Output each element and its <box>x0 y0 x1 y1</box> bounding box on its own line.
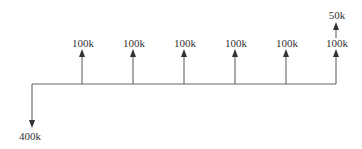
inflow-label-period-4: 100k <box>225 38 247 49</box>
inflow-label-period-1: 100k <box>72 38 94 49</box>
inflow-arrow-period-3 <box>181 49 187 84</box>
inflow-arrow-period-4 <box>232 49 238 84</box>
inflow-arrow-period-2 <box>130 49 136 84</box>
outflow-arrow-period-0 <box>29 84 35 128</box>
inflow-label-period-2: 100k <box>123 38 145 49</box>
inflow-arrow-period-6 <box>333 49 339 84</box>
inflow-label-period-5: 100k <box>276 38 298 49</box>
inflow-arrow-period-5 <box>283 49 289 84</box>
extra-inflow-arrow-period-6 <box>333 22 339 38</box>
cash-flow-diagram <box>0 0 362 149</box>
inflow-label-period-6: 100k <box>326 38 348 49</box>
inflow-label-period-3: 100k <box>174 38 196 49</box>
outflow-label-period-0: 400k <box>19 131 41 142</box>
extra-inflow-label-period-6: 50k <box>329 10 346 21</box>
inflow-arrow-period-1 <box>79 49 85 84</box>
